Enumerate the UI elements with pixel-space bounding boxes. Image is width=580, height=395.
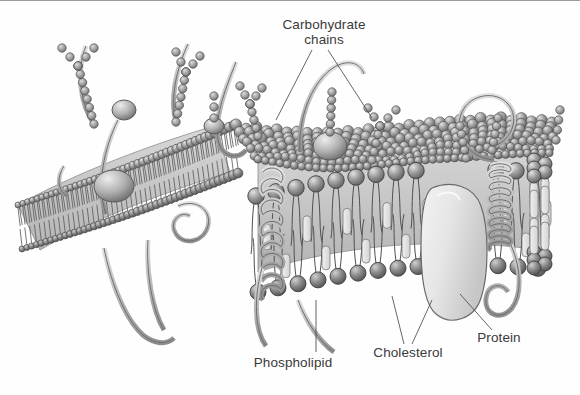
carbohydrate-bead	[74, 62, 82, 70]
phospholipid-head	[341, 164, 349, 172]
leader-line-cholesterol	[392, 296, 404, 344]
phospholipid-head	[417, 137, 427, 147]
carbohydrate-bead	[66, 53, 74, 61]
phospholipid-head	[408, 162, 424, 178]
phospholipid-head	[545, 149, 553, 157]
carbohydrate-bead	[376, 122, 384, 130]
carbohydrate-bead	[392, 106, 400, 114]
carbohydrate-bead	[76, 70, 84, 78]
carbohydrate-bead	[553, 126, 561, 134]
carbohydrate-bead	[178, 84, 186, 92]
phospholipid-head	[506, 142, 515, 151]
phospholipid-head	[281, 152, 290, 161]
phospholipid-head	[269, 158, 277, 166]
carbohydrate-bead	[210, 103, 218, 111]
phospholipid-head	[312, 164, 320, 172]
phospholipid-head	[350, 265, 366, 281]
carbohydrate-bead	[182, 68, 190, 76]
carbohydrate-bead	[82, 53, 90, 61]
cholesterol-molecule	[530, 190, 538, 218]
phospholipid-head	[348, 169, 364, 185]
carbohydrate-bead	[85, 103, 93, 111]
lipid-tail	[253, 238, 256, 285]
carbohydrate-bead	[488, 146, 496, 154]
carbohydrate-bead	[252, 124, 260, 132]
phospholipid-head	[288, 180, 304, 196]
carbohydrate-bead	[252, 92, 260, 100]
carbohydrate-bead	[172, 118, 180, 126]
carbohydrate-bead	[456, 122, 464, 130]
phospholipid-head	[527, 136, 536, 145]
label-cholesterol: Cholesterol	[328, 345, 488, 360]
phospholipid-head	[395, 146, 404, 155]
phospholipid-head	[390, 260, 406, 276]
phospholipid-head	[400, 158, 408, 166]
cholesterol-molecule	[530, 226, 538, 254]
carbohydrate-bead	[462, 154, 470, 162]
carbohydrate-bead	[554, 116, 562, 124]
phospholipid-head	[527, 169, 541, 183]
phospholipid-head	[490, 258, 506, 274]
phospholipid-head	[330, 268, 346, 284]
carbohydrate-bead	[250, 116, 258, 124]
carbohydrate-bead	[210, 92, 218, 100]
carbohydrate-bead	[90, 44, 98, 52]
carbohydrate-bead	[460, 146, 468, 154]
carbohydrate-bead	[326, 120, 334, 128]
cholesterol-molecule	[541, 186, 549, 214]
phospholipid-head	[305, 163, 313, 171]
carbohydrate-bead	[327, 104, 335, 112]
carbohydrate-bead	[328, 88, 336, 96]
carbohydrate-bead	[175, 101, 183, 109]
carbohydrate-bead	[90, 120, 98, 128]
glycolipid-head	[112, 100, 136, 120]
phospholipid-head	[408, 138, 418, 148]
carbohydrate-bead	[327, 112, 335, 120]
alpha-helix-protein	[489, 164, 511, 250]
carbohydrate-bead	[491, 130, 499, 138]
carbohydrate-bead	[58, 44, 66, 52]
phospholipid-head	[443, 154, 451, 162]
membrane-figure: Carbohydrate chains Phospholipid Cholest…	[0, 0, 580, 395]
carbohydrate-bead	[196, 52, 204, 60]
phospholipid-head	[388, 164, 404, 180]
phospholipid-head	[509, 150, 517, 158]
label-protein: Protein	[444, 330, 554, 345]
phospholipid-head	[290, 161, 298, 169]
phospholipid-head	[386, 147, 395, 156]
carbohydrate-bead	[172, 48, 180, 56]
carbohydrate-bead	[254, 132, 262, 140]
phospholipid-head	[233, 168, 243, 178]
carbohydrate-bead	[78, 78, 86, 86]
phospholipid-head	[327, 164, 335, 172]
carbohydrate-bead	[246, 100, 254, 108]
leader-line-cholesterol	[412, 300, 432, 344]
cholesterol-molecule	[541, 222, 549, 250]
glycolipid-head	[94, 170, 134, 202]
lipid-tail	[20, 229, 22, 246]
phospholipid-head	[421, 156, 429, 164]
carbohydrate-bead	[177, 58, 185, 66]
lipid-tail	[25, 228, 27, 245]
phospholipid-head	[334, 164, 342, 172]
phospholipid-head	[436, 155, 444, 163]
carbohydrate-bead	[326, 128, 334, 136]
carbohydrate-bead	[552, 136, 560, 144]
carbohydrate-bead	[372, 139, 380, 147]
phospholipid-head	[320, 164, 328, 172]
carbohydrate-bead	[83, 95, 91, 103]
carbohydrate-bead	[189, 60, 197, 68]
cholesterol-molecule	[402, 234, 410, 258]
carbohydrate-bead	[258, 84, 266, 92]
carbohydrate-bead	[368, 156, 376, 164]
carbohydrate-bead	[173, 109, 181, 117]
carbohydrate-bead	[556, 106, 564, 114]
phospholipid-head	[370, 262, 386, 278]
carbohydrate-bead	[459, 138, 467, 146]
phospholipid-head	[261, 156, 269, 164]
phospholipid-head	[368, 166, 384, 182]
carbohydrate-bead	[374, 130, 382, 138]
phospholipid-head	[310, 272, 326, 288]
carbohydrate-bead	[180, 76, 188, 84]
carbohydrate-bead	[370, 147, 378, 155]
